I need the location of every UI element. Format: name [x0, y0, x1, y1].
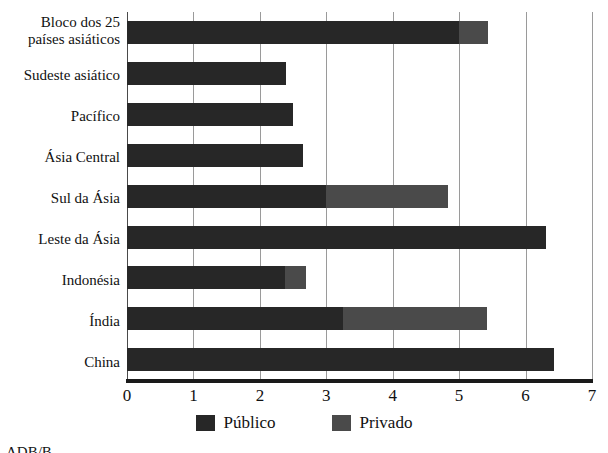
bar-segment-publico [127, 226, 546, 249]
bar-segment-privado [326, 185, 448, 208]
bar-segment-publico [127, 348, 554, 371]
bar-track [127, 103, 293, 126]
category-label-line: Ásia Central [0, 149, 120, 166]
legend-swatch-icon [196, 415, 215, 431]
gridline-7 [592, 12, 593, 380]
bar-segment-privado [343, 307, 487, 330]
bar-segment-publico [127, 103, 293, 126]
bar-row [127, 257, 592, 298]
category-label: China [0, 354, 120, 371]
category-label-line: Leste da Ásia [0, 231, 120, 248]
category-label-line: Pacífico [0, 108, 120, 125]
legend-item-publico: Público [196, 413, 276, 433]
bar-segment-publico [127, 266, 285, 289]
category-label: Bloco dos 25 países asiáticos [0, 14, 120, 48]
category-label-line: Sul da Ásia [0, 190, 120, 207]
category-label-line: Sudeste asiático [0, 67, 120, 84]
legend-swatch-icon [332, 415, 351, 431]
bar-segment-publico [127, 62, 286, 85]
bar-track [127, 266, 306, 289]
category-label: Sudeste asiático [0, 67, 120, 84]
bar-row [127, 135, 592, 176]
x-tick-label: 2 [245, 386, 275, 406]
bar-row [127, 298, 592, 339]
x-tick-label: 0 [112, 386, 142, 406]
category-label: Pacífico [0, 108, 120, 125]
bar-segment-publico [127, 307, 343, 330]
category-label: Leste da Ásia [0, 231, 120, 248]
bar-row [127, 339, 592, 380]
x-tick-label: 1 [178, 386, 208, 406]
bar-track [127, 144, 303, 167]
bar-segment-publico [127, 185, 326, 208]
bar-track [127, 226, 546, 249]
bar-track [127, 307, 487, 330]
bar-segment-publico [127, 144, 303, 167]
bar-segment-privado [285, 266, 306, 289]
x-tick-label: 6 [511, 386, 541, 406]
legend-label: Público [224, 413, 276, 433]
bar-track [127, 21, 488, 44]
bar-row [127, 12, 592, 53]
bar-row [127, 217, 592, 258]
bar-segment-publico [127, 21, 459, 44]
bar-row [127, 94, 592, 135]
bar-segment-privado [459, 21, 488, 44]
category-label: Sul da Ásia [0, 190, 120, 207]
category-label-line: Índia [0, 313, 120, 330]
bar-row [127, 176, 592, 217]
legend-label: Privado [360, 413, 413, 433]
category-label-line: Bloco dos 25 [0, 14, 120, 31]
bar-chart: Bloco dos 25 países asiáticos Sudeste as… [0, 0, 608, 453]
bar-track [127, 185, 448, 208]
x-tick-label: 5 [444, 386, 474, 406]
category-label: Ásia Central [0, 149, 120, 166]
category-label: Indonésia [0, 272, 120, 289]
chart-legend: Público Privado [0, 413, 608, 433]
bar-track [127, 348, 554, 371]
source-note: ADB/B [6, 444, 52, 453]
bar-row [127, 53, 592, 94]
x-tick-label: 3 [311, 386, 341, 406]
x-axis-line [126, 379, 593, 383]
category-label-line: países asiáticos [0, 31, 120, 48]
x-tick-label: 7 [577, 386, 607, 406]
category-label-line: Indonésia [0, 272, 120, 289]
plot-area [127, 12, 592, 380]
legend-item-privado: Privado [332, 413, 413, 433]
category-label-line: China [0, 354, 120, 371]
x-tick-label: 4 [378, 386, 408, 406]
category-label: Índia [0, 313, 120, 330]
bar-track [127, 62, 286, 85]
